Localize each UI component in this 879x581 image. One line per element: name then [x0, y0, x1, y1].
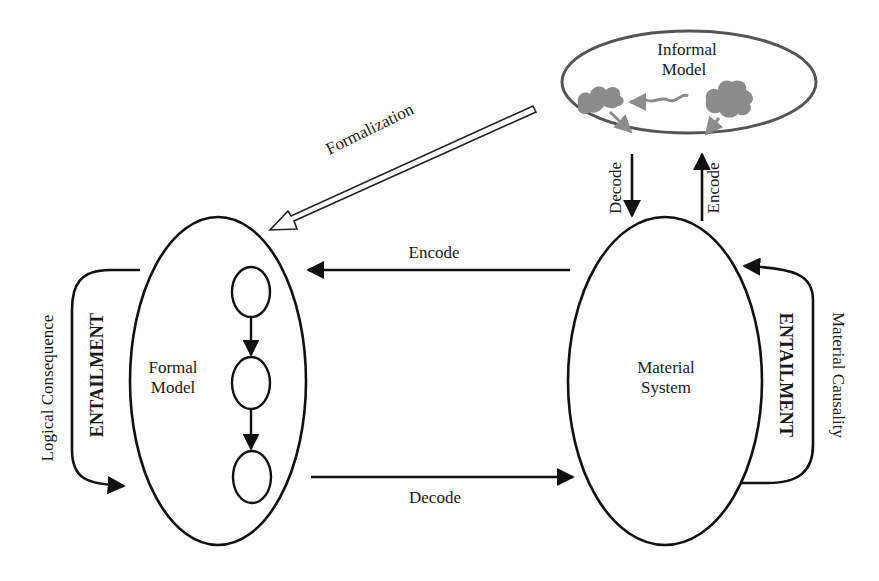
right-entailment-label: ENTAILMENT: [776, 313, 796, 438]
diagram-canvas: Informal Model Formalization Decode Enco…: [0, 0, 879, 581]
material-causality-label: Material Causality: [829, 312, 848, 439]
state-node-1: [232, 267, 270, 317]
vertical-encode-arrow: Encode: [702, 154, 723, 221]
state-node-2: [232, 357, 270, 409]
left-entailment-loop: Logical Consequence ENTAILMENT: [38, 270, 140, 486]
left-entailment-label: ENTAILMENT: [87, 313, 107, 438]
informal-model-label-1: Informal: [657, 40, 717, 59]
material-system-node: Material System: [568, 217, 762, 545]
formal-model-node: Formal Model: [130, 217, 306, 545]
vertical-decode-label: Decode: [606, 162, 625, 214]
cloud-right-icon: [706, 80, 753, 117]
state-node-3: [233, 451, 271, 503]
horizontal-encode-arrow: Encode: [308, 243, 570, 270]
wavy-arrow-icon: [630, 95, 688, 102]
formal-model-label-1: Formal: [148, 358, 197, 377]
vertical-encode-label: Encode: [704, 163, 723, 214]
formalization-label: Formalization: [323, 99, 417, 158]
formal-model-label-2: Model: [151, 378, 196, 397]
right-entailment-loop: Material Causality ENTAILMENT: [742, 266, 848, 483]
horizontal-decode-label: Decode: [409, 488, 461, 507]
material-system-label-2: System: [641, 378, 691, 397]
informal-model-label-2: Model: [662, 60, 707, 79]
formalization-arrow: Formalization: [270, 99, 536, 230]
horizontal-decode-arrow: Decode: [311, 477, 573, 507]
material-system-label-1: Material: [637, 358, 695, 377]
cloud-left-icon: [578, 87, 624, 115]
vertical-decode-arrow: Decode: [606, 154, 632, 216]
horizontal-encode-label: Encode: [409, 243, 460, 262]
informal-model-node: Informal Model: [562, 31, 816, 134]
logical-consequence-label: Logical Consequence: [38, 315, 57, 462]
